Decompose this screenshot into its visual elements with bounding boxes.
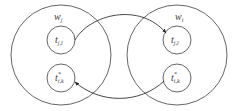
- node-left-top[interactable]: tj,l: [47, 26, 75, 54]
- node-right-top-label: tj,l: [171, 34, 179, 46]
- group-left: wj tj,l t*i,k: [11, 5, 111, 105]
- node-left-bottom[interactable]: t*i,k: [47, 64, 75, 92]
- group-right-label: wi: [175, 11, 184, 23]
- diagram-canvas: wj tj,l t*i,k wi tj,l t*i,k: [0, 0, 237, 111]
- node-right-bottom-label: t*i,k: [171, 71, 180, 84]
- node-left-bottom-label: t*i,k: [55, 71, 64, 84]
- node-right-top[interactable]: tj,l: [163, 26, 191, 54]
- group-right: wi tj,l t*i,k: [127, 5, 227, 105]
- node-right-bottom[interactable]: t*i,k: [163, 64, 191, 92]
- edge-left-top-to-right-top-arrow: [75, 15, 166, 40]
- group-left-label: wj: [54, 11, 63, 23]
- node-left-top-label: tj,l: [55, 34, 63, 46]
- edge-right-bottom-to-left-bottom-arrow: [75, 81, 164, 98]
